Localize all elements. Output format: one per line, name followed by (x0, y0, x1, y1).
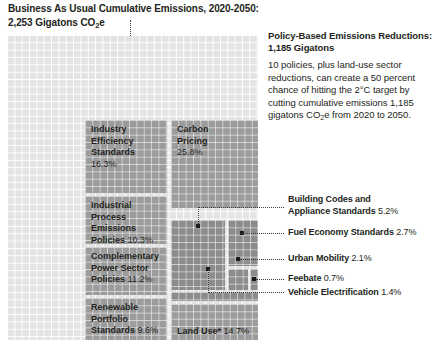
callout-name: Feebate (288, 273, 321, 283)
treemap-box-industrial-process[interactable]: Industrial Process Emissions Policies 10… (85, 196, 167, 244)
leader-hline-building-codes (198, 207, 284, 208)
callout-fuel-economy: Fuel Economy Standards 2.7% (288, 227, 416, 239)
callout-pct: 2.7% (396, 227, 416, 237)
callout-urban-mobility: Urban Mobility 2.1% (288, 253, 372, 265)
title-line-2-pre: 2,253 Gigatons CO (8, 17, 95, 28)
title-leader-line (130, 20, 131, 36)
label-line-2: Pricing (177, 136, 208, 146)
callout-name-line-2: Appliance Standards (288, 206, 376, 216)
leader-vline-building-codes (198, 207, 199, 226)
panel-heading: Policy-Based Emissions Reductions: 1,185… (268, 30, 436, 54)
label-line-1: Carbon (177, 124, 209, 134)
leader-hline-vehicle-electrification (208, 292, 284, 293)
label-pct: 11.2% (128, 274, 153, 284)
title-line-2-subscript: 2 (95, 21, 99, 30)
label-pct: 9.6% (138, 325, 159, 335)
callout-pct: 2.1% (352, 253, 372, 263)
treemap-box-urban-mobility[interactable] (228, 269, 248, 290)
treemap-box-renewable-portfolio-label: Renewable Portfolio Standards 9.6% (91, 302, 164, 337)
title-line-1: Business As Usual Cumulative Emissions, … (8, 2, 270, 16)
label-line-1: Complementary (91, 251, 159, 261)
treemap-box-industry-efficiency[interactable]: Industry Efficiency Standards 16.3% (85, 120, 167, 193)
treemap-box-vehicle-electrification[interactable] (171, 292, 258, 301)
leader-hline-fuel-economy (242, 233, 284, 234)
leader-vline-vehicle-electrification (208, 269, 209, 293)
callout-name: Urban Mobility (288, 253, 349, 263)
callout-pct: 1.4% (381, 287, 401, 297)
callout-vehicle-electrification: Vehicle Electrification 1.4% (288, 287, 401, 299)
callout-feebate: Feebate 0.7% (288, 273, 344, 285)
policy-reductions-panel: Policy-Based Emissions Reductions: 1,185… (268, 30, 436, 123)
callout-name: Fuel Economy Standards (288, 227, 394, 237)
page-title: Business As Usual Cumulative Emissions, … (8, 2, 270, 30)
label-line-1: Industry (91, 124, 127, 134)
title-line-2-post: e (99, 17, 104, 28)
panel-body-subscript: 2 (320, 113, 324, 122)
label-pct: 25.8% (177, 147, 203, 157)
callout-pct: 0.7% (324, 273, 344, 283)
treemap-box-renewable-portfolio[interactable]: Renewable Portfolio Standards 9.6% (85, 298, 167, 340)
callout-name: Vehicle Electrification (288, 287, 379, 297)
label-pct: 10.3% (128, 235, 154, 245)
treemap-box-industry-efficiency-label: Industry Efficiency Standards 16.3% (91, 124, 164, 170)
leader-hline-feebate (256, 279, 284, 280)
label-line-1: Land Use* (177, 326, 221, 336)
label-line-2: Efficiency (91, 136, 134, 146)
label-line-1: Renewable (91, 302, 138, 312)
panel-body-post: e from 2020 to 2050. (324, 109, 411, 120)
treemap-box-complementary-power[interactable]: Complementary Power Sector Policies 11.2… (85, 247, 167, 295)
treemap-box-carbon-pricing[interactable]: Carbon Pricing 25.8% (171, 120, 258, 208)
label-line-3: Policies (91, 274, 125, 284)
panel-body: 10 policies, plus land-use sector reduct… (268, 59, 436, 123)
callout-name-line-1: Building Codes and (288, 194, 371, 204)
leader-hline-urban-mobility (240, 259, 284, 260)
treemap-box-complementary-power-label: Complementary Power Sector Policies 11.2… (91, 251, 164, 286)
callout-pct: 5.2% (378, 206, 398, 216)
label-line-1: Industrial Process (91, 200, 132, 222)
treemap-box-land-use-label: Land Use* 14.7% (177, 326, 255, 338)
label-pct: 16.3% (91, 159, 117, 169)
infographic-root: Business As Usual Cumulative Emissions, … (0, 0, 441, 349)
label-pct: 14.7% (224, 326, 250, 336)
label-line-2: Portfolio (91, 314, 128, 324)
treemap-box-carbon-pricing-label: Carbon Pricing 25.8% (177, 124, 255, 159)
label-line-3: Standards (91, 325, 135, 335)
label-line-2: Power Sector (91, 263, 149, 273)
label-line-3: Policies (91, 235, 125, 245)
treemap-box-industrial-process-label: Industrial Process Emissions Policies 10… (91, 200, 164, 244)
treemap-box-building-codes[interactable] (171, 220, 225, 290)
title-line-2: 2,253 Gigatons CO2e (8, 16, 270, 31)
label-line-2: Emissions (91, 223, 136, 233)
label-line-3: Standards (91, 147, 135, 157)
callout-building-codes: Building Codes and Appliance Standards 5… (288, 194, 441, 217)
treemap-box-land-use[interactable]: Land Use* 14.7% (171, 304, 258, 340)
